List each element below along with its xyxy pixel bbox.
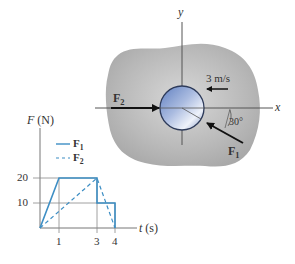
chart-y-title-unit: (N) xyxy=(34,113,54,127)
axis-label-x: x xyxy=(275,101,280,113)
force-f2-subscript: 2 xyxy=(120,98,124,107)
force-f2-label: F2 xyxy=(113,92,125,108)
legend-f2-label: F2 xyxy=(73,152,84,166)
chart-y-title: F (N) xyxy=(27,114,54,126)
tick-label-3: 3 xyxy=(94,236,100,247)
tick-label-1: 1 xyxy=(56,236,62,247)
legend-f1-subscript: 1 xyxy=(80,143,84,152)
tick-label-4: 4 xyxy=(112,236,118,247)
force-f1-subscript: 1 xyxy=(235,151,239,160)
chart-x-title-unit: (s) xyxy=(142,221,158,235)
angle-label: 30° xyxy=(229,117,243,127)
legend-f1-label: F1 xyxy=(73,138,84,152)
chart-x-title: t (s) xyxy=(139,222,158,234)
velocity-label: 3 m/s xyxy=(206,73,230,84)
tick-label-10: 10 xyxy=(17,197,28,208)
legend-f1-symbol: F xyxy=(73,137,80,149)
axis-label-y: y xyxy=(178,6,183,18)
force-f1-label: F1 xyxy=(228,145,240,161)
legend-f2-symbol: F xyxy=(73,151,80,163)
legend-f2-subscript: 2 xyxy=(80,157,84,166)
tick-label-20: 20 xyxy=(17,172,28,183)
